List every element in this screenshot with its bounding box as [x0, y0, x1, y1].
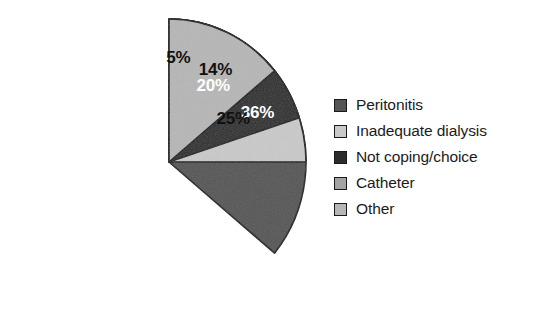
legend-item[interactable]: Peritonitis — [334, 92, 534, 118]
legend-item-label: Other — [356, 200, 394, 218]
legend-swatch-icon — [334, 177, 347, 190]
legend-item[interactable]: Not coping/choice — [334, 144, 534, 170]
legend-swatch-icon — [334, 125, 347, 138]
chart-legend: PeritonitisInadequate dialysisNot coping… — [334, 92, 534, 222]
legend-item-label: Peritonitis — [356, 96, 423, 114]
pie-svg: 36%25%20%5%14% — [31, 18, 307, 306]
legend-item-label: Catheter — [356, 174, 415, 192]
legend-item[interactable]: Inadequate dialysis — [334, 118, 534, 144]
pie-slice-value-label: 5% — [166, 48, 190, 67]
legend-item-label: Inadequate dialysis — [356, 122, 487, 140]
pie-slice-value-label: 25% — [216, 109, 250, 128]
pie-plot-area: 36%25%20%5%14% — [31, 18, 307, 306]
legend-swatch-icon — [334, 151, 347, 164]
legend-item[interactable]: Other — [334, 196, 534, 222]
legend-swatch-icon — [334, 203, 347, 216]
pie-chart-figure: 36%25%20%5%14% PeritonitisInadequate dia… — [0, 0, 539, 321]
legend-item[interactable]: Catheter — [334, 170, 534, 196]
legend-item-label: Not coping/choice — [356, 148, 478, 166]
legend-swatch-icon — [334, 99, 347, 112]
pie-slice-value-label: 14% — [199, 60, 233, 79]
